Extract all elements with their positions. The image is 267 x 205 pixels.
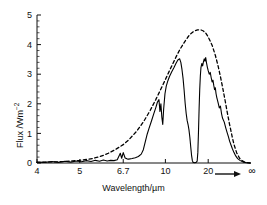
y-tick-label: 5 xyxy=(27,10,32,20)
infinity-arrow-icon xyxy=(215,171,241,177)
series-blackbody-dashed xyxy=(37,30,250,163)
chart-series xyxy=(37,30,250,163)
y-tick-label: 2 xyxy=(27,99,32,109)
x-tick-label: 20 xyxy=(203,166,213,176)
y-axis-ticks xyxy=(37,15,41,163)
y-tick-label: 4 xyxy=(27,40,32,50)
x-axis-title: Wavelength/µm xyxy=(0,183,267,193)
chart-container: 012345 456.71020∞ Flux /Wm−2 Wavelength/… xyxy=(0,0,267,205)
x-tick-label: 5 xyxy=(77,166,82,176)
y-axis-title-exponent: −2 xyxy=(13,103,20,110)
x-axis-title-text: Wavelength/µm xyxy=(102,183,164,193)
y-axis-title: Flux /Wm−2 xyxy=(2,52,16,152)
x-tick-label: 10 xyxy=(160,166,170,176)
x-tick-label: 4 xyxy=(34,166,39,176)
y-axis-title-text: Flux /Wm xyxy=(15,110,25,148)
x-tick-label: 6.7 xyxy=(117,166,130,176)
chart-axes xyxy=(37,15,251,163)
y-axis-tick-labels: 012345 xyxy=(27,10,32,168)
y-tick-label: 3 xyxy=(27,69,32,79)
chart-plot-area: 012345 456.71020∞ xyxy=(0,0,267,205)
x-tick-label-infinity: ∞ xyxy=(248,165,255,176)
series-observed-solid xyxy=(37,58,250,163)
y-tick-label: 0 xyxy=(27,158,32,168)
y-tick-label: 1 xyxy=(27,129,32,139)
